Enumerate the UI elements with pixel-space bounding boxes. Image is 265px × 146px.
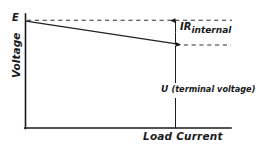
ir-internal-symbol: IR (180, 21, 191, 32)
terminal-voltage-curve (26, 21, 178, 44)
emf-label: E (12, 13, 19, 23)
terminal-voltage-symbol: U (161, 84, 168, 94)
ir-internal-annotation: IRinternal (180, 22, 231, 35)
y-axis-label: Voltage (11, 25, 22, 85)
terminal-voltage-description: (terminal voltage) (171, 84, 255, 94)
ir-internal-subscript: internal (191, 25, 231, 35)
voltage-load-current-diagram: Voltage E Load Current IRinternal U (ter… (0, 0, 265, 146)
x-axis-label: Load Current (143, 131, 223, 142)
terminal-voltage-annotation: U (terminal voltage) (161, 85, 255, 94)
